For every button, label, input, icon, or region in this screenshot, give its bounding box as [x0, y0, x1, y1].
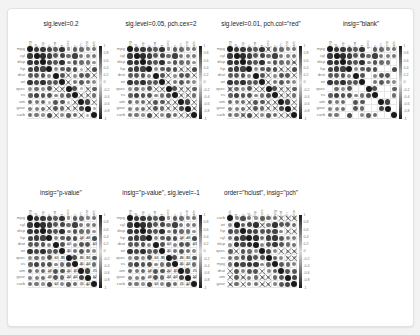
correlation-circle — [140, 80, 146, 86]
correlation-circle — [253, 229, 258, 234]
correlation-circle — [392, 93, 396, 97]
matrix-cell: .75 — [191, 268, 197, 275]
correlation-circle — [28, 113, 32, 117]
insignificant-cross-icon — [291, 59, 297, 66]
correlation-circle — [128, 262, 133, 267]
matrix-cell — [191, 235, 197, 242]
correlation-circle — [272, 261, 278, 267]
matrix-cell — [291, 53, 297, 60]
correlation-circle — [66, 54, 70, 58]
correlation-circle — [60, 222, 65, 227]
correlation-circle — [253, 262, 258, 267]
correlation-circle — [379, 106, 384, 111]
correlation-circle — [292, 67, 297, 72]
row-label: am — [211, 274, 225, 281]
matrix-cell — [91, 261, 97, 268]
correlation-circle — [273, 269, 278, 274]
correlation-circle — [60, 275, 64, 279]
correlation-circle — [334, 113, 338, 117]
correlation-circle — [341, 100, 345, 104]
correlation-circle — [153, 269, 158, 274]
correlation-circle — [134, 235, 139, 240]
correlation-circle — [86, 216, 90, 220]
matrix-cell — [91, 99, 97, 106]
row-label: vs — [211, 255, 225, 262]
correlation-circle — [379, 80, 384, 85]
matrix-cell — [91, 248, 97, 255]
colorbar-tick-label: 0 — [103, 80, 105, 84]
colorbar-tick-label: -0.4 — [303, 264, 309, 268]
colorbar-tick-label: 1 — [403, 44, 405, 48]
correlation-circle — [340, 66, 345, 71]
correlation-circle — [27, 80, 33, 86]
colorbar-tick-label: 0.6 — [203, 59, 208, 63]
correlation-circle — [266, 255, 272, 261]
correlation-circle — [160, 222, 165, 227]
colorbar-tick-label: 0.4 — [103, 66, 108, 70]
correlation-circle — [59, 248, 65, 254]
correlation-circle — [140, 216, 145, 221]
correlation-circle — [41, 282, 45, 286]
correlation-circle — [160, 242, 165, 247]
correlation-circle — [253, 242, 259, 248]
correlation-circle — [173, 249, 177, 253]
correlation-circle — [185, 99, 190, 104]
colorbar-tick-label: -0.6 — [103, 102, 109, 106]
correlation-circle — [392, 47, 396, 51]
correlation-circle — [286, 80, 290, 84]
correlation-circle — [41, 269, 45, 273]
correlation-circle — [191, 281, 197, 287]
correlation-circle — [327, 53, 332, 58]
correlation-circle — [328, 67, 333, 72]
correlation-circle — [159, 248, 165, 254]
correlation-circle — [53, 80, 58, 85]
correlation-circle — [354, 67, 358, 71]
row-label: gear — [11, 105, 25, 112]
correlation-circle — [59, 79, 65, 85]
correlation-circle — [147, 282, 152, 287]
row-label: gear — [111, 274, 125, 281]
correlation-circle — [59, 60, 65, 66]
correlation-circle — [92, 47, 96, 51]
correlation-circle — [72, 53, 77, 58]
row-label: gear — [111, 105, 125, 112]
correlation-circle — [234, 242, 240, 248]
correlation-circle — [154, 94, 158, 98]
correlation-circle — [234, 93, 239, 98]
row-label: wt — [311, 79, 325, 86]
matrix-cell — [91, 46, 97, 53]
correlation-circle — [35, 100, 39, 104]
correlation-circle — [73, 74, 77, 78]
correlation-circle — [291, 112, 297, 118]
colorbar-tick-label: 0.2 — [303, 242, 308, 246]
insignificant-cross-icon — [291, 99, 297, 106]
colorbar-tick-label: -1 — [203, 117, 206, 121]
correlation-circle — [392, 67, 397, 72]
correlation-circle — [134, 282, 138, 286]
correlation-circle — [34, 249, 39, 254]
matrix-cell — [91, 228, 97, 235]
correlation-circle — [60, 282, 64, 286]
row-label: vs — [11, 261, 25, 268]
matrix-cell — [391, 79, 397, 86]
correlation-circle — [27, 60, 32, 65]
colorbar-tick-label: 0.8 — [203, 51, 208, 55]
correlation-circle — [135, 100, 139, 104]
row-label: wt — [111, 248, 125, 255]
correlation-circle — [53, 100, 58, 105]
correlation-circle — [227, 80, 233, 86]
correlation-circle — [40, 66, 45, 71]
p-value-label: .75 — [91, 268, 97, 275]
correlation-circle — [147, 255, 152, 260]
correlation-circle — [266, 216, 270, 220]
correlation-circle — [134, 73, 139, 78]
matrix-cell — [291, 92, 297, 99]
insignificant-cross-icon — [291, 215, 297, 222]
correlation-circle — [192, 61, 196, 65]
p-value-label: .12 — [191, 274, 197, 281]
correlation-circle — [79, 60, 83, 64]
row-label: wt — [111, 79, 125, 86]
row-label: hp — [111, 235, 125, 242]
correlation-circle — [160, 67, 165, 72]
correlation-circle — [135, 276, 139, 280]
